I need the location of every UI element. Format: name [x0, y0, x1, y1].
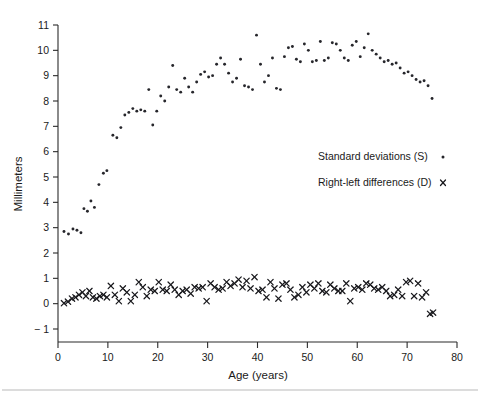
y-tick-label: − 1 [34, 323, 49, 335]
data-point-d [204, 298, 209, 303]
data-point-s [131, 107, 134, 110]
x-marker-icon [441, 180, 446, 186]
data-point-s [387, 59, 390, 62]
data-point-s [211, 74, 214, 77]
data-point-s [375, 53, 378, 56]
data-point-s [259, 63, 262, 66]
data-point-s [283, 55, 286, 58]
data-point-s [367, 32, 370, 35]
data-point-d [316, 281, 321, 286]
data-point-s [105, 169, 108, 172]
data-point-d [268, 279, 273, 284]
data-point-d [104, 295, 109, 300]
data-point-s [86, 210, 89, 213]
data-point-s [319, 40, 322, 43]
data-point-d [128, 298, 133, 303]
x-tick-label: 20 [152, 351, 164, 363]
data-point-d [87, 288, 92, 293]
y-tick-label: 5 [43, 171, 49, 183]
data-point-d [156, 279, 161, 284]
data-point-s [279, 88, 282, 91]
data-point-d [108, 283, 113, 288]
data-point-d [76, 292, 81, 297]
data-point-s [72, 227, 75, 230]
data-point-s [247, 86, 250, 89]
data-point-s [315, 59, 318, 62]
data-point-s [263, 81, 266, 84]
data-point-d [348, 298, 353, 303]
data-point-s [119, 126, 122, 129]
data-point-d [188, 291, 193, 296]
data-point-s [267, 74, 270, 77]
data-point-d [419, 295, 424, 300]
data-point-d [411, 293, 416, 298]
data-point-s [79, 231, 82, 234]
data-point-s [97, 183, 100, 186]
data-point-d [172, 287, 177, 292]
data-point-s [76, 229, 79, 232]
y-tick-label: 9 [43, 69, 49, 81]
y-tick-label: 3 [43, 221, 49, 233]
data-point-d [244, 278, 249, 283]
data-point-s [89, 200, 92, 203]
data-point-s [187, 86, 190, 89]
x-tick-label: 0 [55, 351, 61, 363]
data-point-d [144, 293, 149, 298]
data-point-s [403, 72, 406, 75]
x-axis-title: Age (years) [228, 369, 288, 381]
legend-label-right-left-differences: Right-left differences (D) [318, 176, 432, 188]
data-point-s [407, 70, 410, 73]
y-tick-label: 0 [43, 297, 49, 309]
data-point-s [287, 46, 290, 49]
data-point-s [151, 124, 154, 127]
data-point-s [102, 172, 105, 175]
data-point-s [415, 78, 418, 81]
data-point-s [203, 70, 206, 73]
data-point-d [304, 290, 309, 295]
data-point-s [179, 91, 182, 94]
scatter-chart-figure: − 101234567891011 01020304050607080 Mill… [0, 0, 480, 398]
y-tick-label: 4 [43, 196, 49, 208]
data-point-d [124, 290, 129, 295]
data-point-s [67, 233, 70, 236]
data-point-s [135, 110, 138, 113]
series-standard-deviations [63, 32, 434, 235]
data-point-d [112, 292, 117, 297]
data-point-s [235, 77, 238, 80]
x-tick-label: 80 [451, 351, 463, 363]
data-point-s [327, 56, 330, 59]
data-point-s [171, 64, 174, 67]
data-point-s [147, 88, 150, 91]
data-point-s [311, 60, 314, 63]
data-point-d [340, 288, 345, 293]
data-point-s [299, 60, 302, 63]
data-point-s [167, 86, 170, 89]
data-point-s [255, 34, 258, 37]
data-point-s [275, 87, 278, 90]
dot-marker-icon [442, 156, 445, 159]
data-point-s [379, 56, 382, 59]
x-axis-ticks: 01020304050607080 [55, 342, 463, 363]
chart-legend: Standard deviations (S) Right-left diffe… [318, 150, 446, 188]
data-point-s [251, 88, 254, 91]
data-point-s [82, 207, 85, 210]
x-tick-label: 10 [102, 351, 114, 363]
data-point-s [93, 206, 96, 209]
x-tick-label: 70 [401, 351, 413, 363]
x-tick-label: 30 [202, 351, 214, 363]
data-point-d [248, 286, 253, 291]
data-point-d [252, 274, 257, 279]
data-point-s [331, 41, 334, 44]
data-point-d [168, 282, 173, 287]
y-tick-label: 2 [43, 247, 49, 259]
data-point-d [136, 279, 141, 284]
data-point-s [295, 58, 298, 61]
data-point-s [159, 94, 162, 97]
data-point-s [183, 77, 186, 80]
data-point-s [323, 59, 326, 62]
series-right-left-differences [61, 274, 435, 316]
data-point-d [132, 292, 137, 297]
data-point-d [236, 277, 241, 282]
data-point-s [239, 58, 242, 61]
data-point-d [399, 293, 404, 298]
